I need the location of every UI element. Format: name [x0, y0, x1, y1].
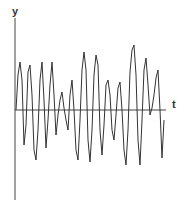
y-axis-label: y [12, 5, 19, 17]
t-axis-label: t [172, 98, 176, 110]
signal-plot: y t [0, 0, 188, 209]
signal-waveform [16, 45, 164, 165]
